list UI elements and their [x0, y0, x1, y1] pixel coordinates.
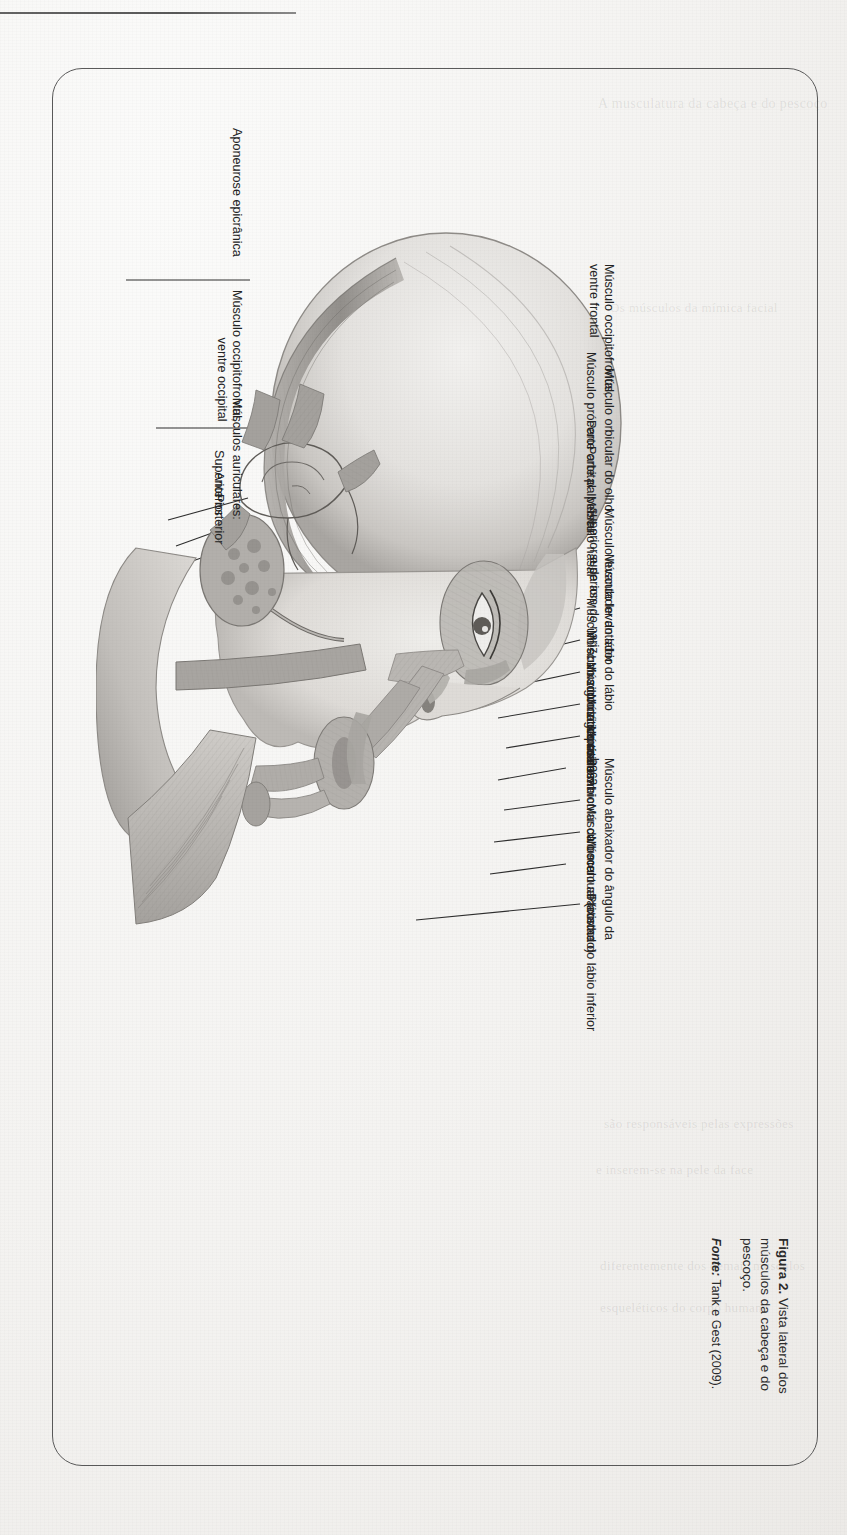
figure-content-rotated: Figura 2. Vista lateral dos músculos da …: [52, 68, 816, 1464]
figure-caption: Figura 2. Vista lateral dos músculos da …: [707, 1238, 792, 1446]
label-orbicular-olho: Músculo orbicular do olho:: [601, 368, 616, 515]
label-musculos-auriculares: Músculos auriculares:: [229, 398, 244, 520]
label-platisma: Platisma: [583, 894, 598, 942]
page-background: A musculatura da cabeça e do pescoço Os …: [0, 0, 847, 1535]
label-aponeurose-epicranica: Aponeurose epicrânica: [229, 128, 244, 257]
page-top-rule: [0, 12, 296, 14]
figure-number: Figura 2.: [776, 1238, 791, 1294]
label-auricular-posterior: Posterior: [211, 494, 226, 544]
figure-source: Fonte: Tank e Gest (2009).: [707, 1238, 724, 1446]
figure-source-text: Tank e Gest (2009).: [709, 1276, 723, 1389]
figure-source-label: Fonte:: [709, 1238, 723, 1276]
